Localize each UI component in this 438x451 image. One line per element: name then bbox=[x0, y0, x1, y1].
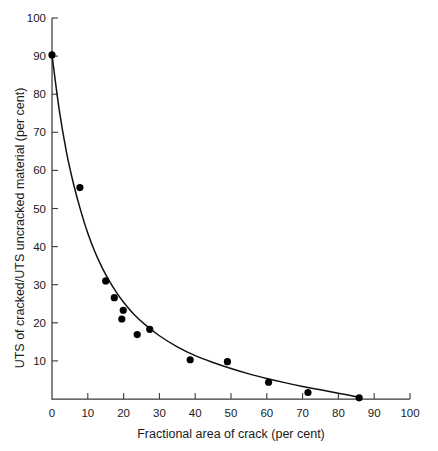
x-tick-label: 80 bbox=[332, 407, 345, 419]
y-tick-label: 10 bbox=[33, 355, 46, 367]
axes bbox=[52, 18, 410, 399]
x-tick-label: 50 bbox=[225, 407, 238, 419]
y-tick-label: 70 bbox=[33, 126, 46, 138]
x-tick-label: 40 bbox=[189, 407, 202, 419]
x-tick-label: 60 bbox=[260, 407, 273, 419]
data-point-marker bbox=[224, 358, 231, 365]
y-tick-label: 40 bbox=[33, 241, 46, 253]
x-tick-label: 100 bbox=[400, 407, 419, 419]
data-point-marker bbox=[120, 307, 127, 314]
x-tick-label: 0 bbox=[49, 407, 55, 419]
fit-curve-path bbox=[52, 55, 360, 398]
data-point-marker bbox=[111, 294, 118, 301]
data-point-marker bbox=[304, 389, 311, 396]
x-tick-label: 20 bbox=[117, 407, 130, 419]
y-axis-title: UTS of cracked/UTS uncracked material (p… bbox=[13, 88, 27, 369]
data-point-marker bbox=[48, 51, 55, 58]
x-tick-label: 90 bbox=[368, 407, 381, 419]
y-tick-label: 50 bbox=[33, 203, 46, 215]
y-tick-label: 30 bbox=[33, 279, 46, 291]
data-point-marker bbox=[265, 379, 272, 386]
data-point-marker bbox=[134, 331, 141, 338]
x-tick-label: 70 bbox=[296, 407, 309, 419]
y-tick-label: 60 bbox=[33, 164, 46, 176]
x-axis-title: Fractional area of crack (per cent) bbox=[137, 427, 325, 441]
y-tick-label: 90 bbox=[33, 50, 46, 62]
x-tick-label: 10 bbox=[81, 407, 94, 419]
chart-figure: 102030405060708090100 010203040506070809… bbox=[0, 0, 438, 451]
data-point-marker bbox=[146, 326, 153, 333]
x-axis-ticks: 0102030405060708090100 bbox=[49, 393, 420, 419]
data-points bbox=[48, 51, 362, 401]
y-tick-label: 20 bbox=[33, 317, 46, 329]
data-point-marker bbox=[187, 356, 194, 363]
data-point-marker bbox=[118, 315, 125, 322]
fitted-curve bbox=[52, 55, 360, 398]
data-point-marker bbox=[102, 277, 109, 284]
x-tick-label: 30 bbox=[153, 407, 166, 419]
y-tick-label: 80 bbox=[33, 88, 46, 100]
y-tick-label: 100 bbox=[27, 12, 46, 24]
data-point-marker bbox=[76, 184, 83, 191]
axis-spine bbox=[52, 18, 410, 399]
data-point-marker bbox=[356, 394, 363, 401]
scatter-plot-canvas: 102030405060708090100 010203040506070809… bbox=[0, 0, 438, 451]
